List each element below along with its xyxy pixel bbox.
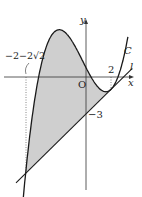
graph-diagram: y x O 2 −2−2√2 −3 C l <box>0 0 142 197</box>
x-tick-left-label: −2−2√2 <box>5 51 45 61</box>
x-axis-label: x <box>128 78 134 88</box>
origin-label: O <box>78 80 86 90</box>
graph-svg <box>0 0 142 197</box>
y-axis-label: y <box>80 15 86 25</box>
x-tick-2-label: 2 <box>108 65 114 75</box>
line-label: l <box>130 62 133 72</box>
leader-line <box>25 63 29 74</box>
curve-label: C <box>124 46 132 56</box>
y-tick-label: −3 <box>88 110 103 120</box>
